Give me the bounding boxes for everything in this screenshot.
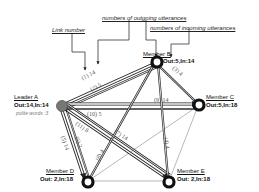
annotation-link-number: Link number bbox=[52, 27, 85, 33]
member-b-name: Member B bbox=[143, 51, 171, 57]
member-d-stats: Out: 2,In:18 bbox=[40, 176, 73, 182]
member-b-node bbox=[152, 57, 162, 67]
link-label-10: (10) 5 bbox=[87, 111, 102, 117]
member-e-node bbox=[164, 177, 174, 187]
member-c-name: Member C bbox=[206, 94, 234, 100]
link-4 bbox=[158, 64, 168, 178]
member-c-node bbox=[194, 100, 204, 110]
member-d-name: Member D bbox=[46, 168, 74, 174]
leader-a-stats: Out:14,In:14 bbox=[14, 102, 49, 108]
member-b-stats: Out:5,In:14 bbox=[163, 58, 194, 64]
link-label-9: (9) 14 bbox=[154, 97, 169, 103]
annotation-outgoing: numbers of outgoing utterances bbox=[102, 15, 186, 21]
member-c-stats: Out:5,In:18 bbox=[206, 102, 237, 108]
leader-a-name: Leader A bbox=[14, 94, 38, 100]
leader-a-polite-words: polite words :3 bbox=[16, 111, 48, 116]
member-e-name: Member E bbox=[177, 168, 205, 174]
member-e-stats: Out: 2,In:18 bbox=[177, 176, 210, 182]
annotation-incoming: numbers of incoming utterances bbox=[150, 25, 235, 31]
double-links bbox=[61, 63, 198, 180]
member-d-node bbox=[83, 177, 93, 187]
leader-a-node bbox=[57, 101, 68, 112]
